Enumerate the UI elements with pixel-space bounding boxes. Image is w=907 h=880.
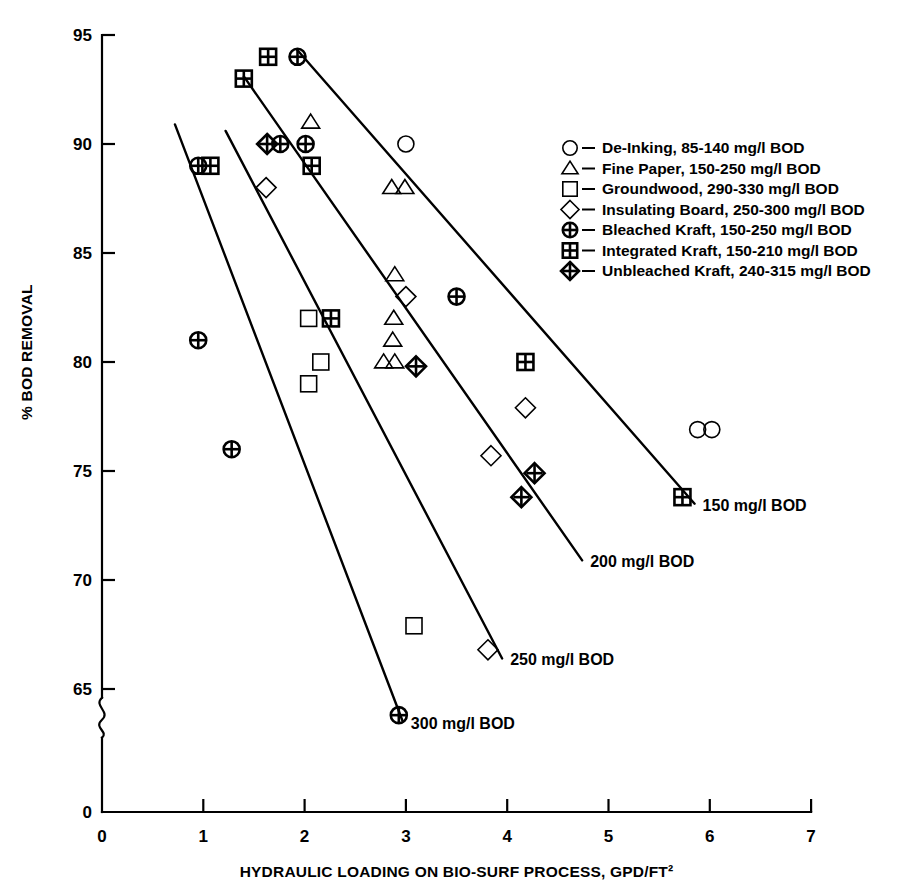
trend-line-3 bbox=[175, 124, 403, 721]
x-tick-label-3: 3 bbox=[401, 827, 410, 846]
data-point bbox=[386, 267, 404, 281]
x-axis-title: HYDRAULIC LOADING ON BIO-SURF PROCESS, G… bbox=[240, 863, 674, 880]
trend-line-label-3: 300 mg/l BOD bbox=[411, 715, 515, 732]
x-tick-label-7: 7 bbox=[806, 827, 815, 846]
y-tick-label-0: 0 bbox=[83, 803, 92, 822]
chart-page: 95908580757065001234567 150 mg/l BOD200 … bbox=[0, 0, 907, 880]
data-point bbox=[674, 489, 690, 505]
x-tick-label-4: 4 bbox=[502, 827, 512, 846]
series-bleached-kraft bbox=[190, 49, 464, 723]
trend-line-label-2: 250 mg/l BOD bbox=[510, 651, 614, 668]
data-point bbox=[224, 441, 240, 457]
legend-item-6: Unbleached Kraft, 240-315 mg/l BOD bbox=[561, 262, 871, 280]
x-tick-label-6: 6 bbox=[705, 827, 714, 846]
y-tick-label-80: 80 bbox=[73, 353, 92, 372]
legend-label-2: Groundwood, 290-330 mg/l BOD bbox=[602, 180, 839, 197]
legend-item-3: Insulating Board, 250-300 mg/l BOD bbox=[561, 201, 865, 219]
data-point bbox=[301, 376, 317, 392]
data-point bbox=[260, 49, 276, 65]
legend-label-3: Insulating Board, 250-300 mg/l BOD bbox=[602, 201, 865, 218]
y-axis-break-symbol bbox=[99, 698, 104, 738]
trend-line-label-1: 200 mg/l BOD bbox=[590, 553, 694, 570]
y-axis-title: % BOD REMOVAL bbox=[18, 284, 35, 420]
legend-label-6: Unbleached Kraft, 240-315 mg/l BOD bbox=[602, 262, 871, 279]
legend-label-1: Fine Paper, 150-250 mg/l BOD bbox=[602, 160, 821, 177]
y-tick-label-70: 70 bbox=[73, 571, 92, 590]
data-point bbox=[511, 487, 531, 507]
x-tick-label-2: 2 bbox=[300, 827, 309, 846]
data-point bbox=[406, 356, 426, 376]
legend-item-1: Fine Paper, 150-250 mg/l BOD bbox=[562, 160, 821, 177]
bod-removal-scatter-chart: 95908580757065001234567 150 mg/l BOD200 … bbox=[0, 0, 907, 880]
y-tick-label-75: 75 bbox=[73, 462, 92, 481]
series-insulating-board bbox=[256, 178, 535, 660]
legend-item-2: Groundwood, 290-330 mg/l BOD bbox=[563, 180, 839, 197]
data-point bbox=[323, 310, 339, 326]
x-tick-label-1: 1 bbox=[199, 827, 208, 846]
legend-item-5: Integrated Kraft, 150-210 mg/l BOD bbox=[563, 242, 858, 259]
data-point bbox=[481, 446, 501, 466]
data-point bbox=[517, 354, 533, 370]
y-tick-label-90: 90 bbox=[73, 135, 92, 154]
y-tick-label-95: 95 bbox=[73, 26, 92, 45]
legend-item-4: Bleached Kraft, 150-250 mg/l BOD bbox=[563, 221, 852, 238]
data-point bbox=[313, 354, 329, 370]
legend-label-4: Bleached Kraft, 150-250 mg/l BOD bbox=[602, 221, 852, 238]
data-point bbox=[385, 310, 403, 324]
x-tick-label-5: 5 bbox=[604, 827, 613, 846]
legend: De-Inking, 85-140 mg/l BODFine Paper, 15… bbox=[561, 139, 871, 280]
axis-labels-group: HYDRAULIC LOADING ON BIO-SURF PROCESS, G… bbox=[18, 284, 673, 880]
data-point bbox=[301, 310, 317, 326]
data-point bbox=[304, 158, 320, 174]
legend-item-0: De-Inking, 85-140 mg/l BOD bbox=[563, 139, 805, 156]
data-point bbox=[406, 618, 422, 634]
data-point bbox=[515, 398, 535, 418]
data-point bbox=[257, 134, 277, 154]
x-tick-label-0: 0 bbox=[97, 827, 106, 846]
data-point bbox=[384, 332, 402, 346]
data-point bbox=[449, 289, 465, 305]
legend-label-0: De-Inking, 85-140 mg/l BOD bbox=[602, 139, 804, 156]
y-tick-label-65: 65 bbox=[73, 680, 92, 699]
data-point bbox=[290, 49, 306, 65]
y-tick-label-85: 85 bbox=[73, 244, 92, 263]
data-point bbox=[298, 136, 314, 152]
trend-line-label-0: 150 mg/l BOD bbox=[703, 497, 807, 514]
data-point bbox=[398, 136, 414, 152]
trend-line-2 bbox=[226, 131, 503, 659]
data-point bbox=[391, 707, 407, 723]
legend-label-5: Integrated Kraft, 150-210 mg/l BOD bbox=[602, 242, 858, 259]
data-point bbox=[190, 332, 206, 348]
data-point bbox=[302, 114, 320, 128]
